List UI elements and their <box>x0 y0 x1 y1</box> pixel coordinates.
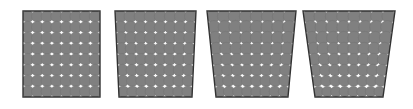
panel-no-taper <box>22 10 101 97</box>
figure-canvas <box>0 0 413 109</box>
panel-medium-taper <box>206 10 296 98</box>
panel-strong-taper <box>303 10 396 97</box>
panel-slight-taper <box>114 10 197 97</box>
figure-root <box>0 0 413 109</box>
panels-container <box>0 0 413 109</box>
